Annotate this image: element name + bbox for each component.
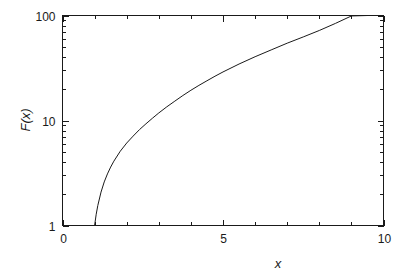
y-tick-label: 10 — [42, 115, 56, 129]
y-tick-label: 100 — [35, 10, 55, 24]
x-tick-label: 0 — [60, 232, 67, 246]
x-tick-label: 10 — [378, 232, 392, 246]
chart-figure: 0510110100 F(x) x — [0, 0, 404, 280]
x-axis-label: x — [274, 256, 282, 271]
x-tick-label: 5 — [220, 232, 227, 246]
y-tick-label: 1 — [49, 220, 56, 234]
y-axis-label: F(x) — [18, 108, 33, 131]
